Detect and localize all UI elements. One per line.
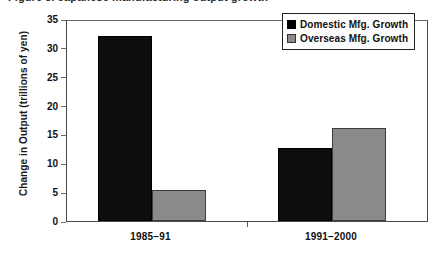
legend-item-overseas: Overseas Mfg. Growth [287,31,408,45]
y-tick-label: 30 [47,43,58,54]
y-tick-label: 35 [47,14,58,25]
bar-domestic-0 [98,36,152,221]
legend-item-domestic: Domestic Mfg. Growth [287,17,408,31]
y-tick-label: 0 [52,216,58,227]
plot-area [66,20,428,222]
bar-overseas-0 [152,190,206,221]
figure-container: Figure 3. Japanese manufacturing output … [0,0,442,255]
legend-label-domestic: Domestic Mfg. Growth [300,19,408,30]
legend-swatch-overseas [287,34,296,43]
legend-swatch-domestic [287,20,296,29]
y-tick-label: 15 [47,129,58,140]
y-tick-label: 25 [47,72,58,83]
y-tick-label: 5 [52,187,58,198]
y-axis-title: Change in Output (trillions of yen) [18,14,29,214]
cut-off-caption-text: Figure 3. Japanese manufacturing output … [8,0,268,3]
x-tick-mark-center [247,222,248,227]
cut-off-caption: Figure 3. Japanese manufacturing output … [0,0,442,9]
bar-overseas-1 [332,128,386,221]
bar-domestic-1 [278,148,332,221]
y-tick-label: 20 [47,101,58,112]
legend-label-overseas: Overseas Mfg. Growth [300,33,408,44]
legend: Domestic Mfg. Growth Overseas Mfg. Growt… [282,13,415,50]
x-tick-label-0: 1985–91 [130,231,170,242]
x-tick-label-1: 1991–2000 [305,231,357,242]
y-tick-label: 10 [47,158,58,169]
